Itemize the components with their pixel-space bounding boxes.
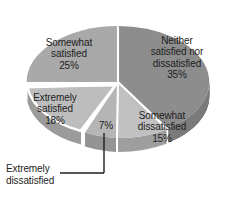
slice-somewhat-satisfied[interactable]: [27, 26, 118, 82]
separator-extremely-somewhat: [27, 86, 115, 87]
pie-chart-figure: Neither satisfied nor dissatisfied 35% S…: [0, 0, 243, 198]
pie-chart-graphic: [0, 0, 243, 198]
separator-dissatisfied-seven: [117, 82, 118, 138]
